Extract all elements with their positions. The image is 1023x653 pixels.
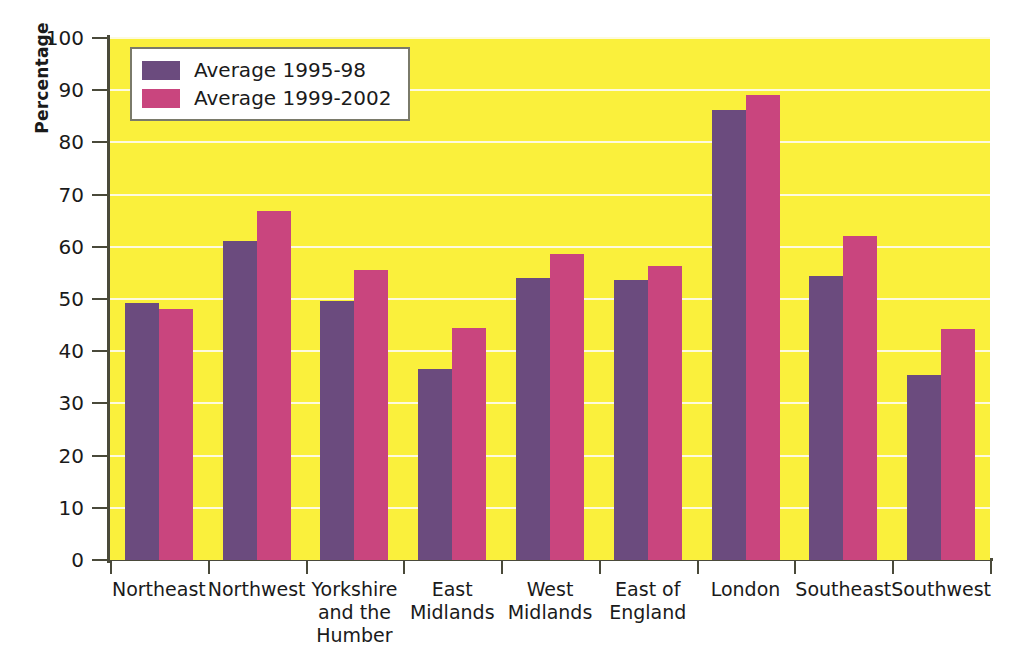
- bar-0-6: [712, 110, 746, 560]
- bar-1-3: [452, 328, 486, 560]
- x-axis-tick: [501, 560, 503, 574]
- bar-1-2: [354, 270, 388, 560]
- y-axis-tick: [92, 455, 108, 457]
- bar-1-6: [746, 95, 780, 560]
- y-axis-tick-label: 30: [38, 391, 84, 415]
- chart-legend: Average 1995-98 Average 1999-2002: [130, 47, 410, 121]
- y-axis-tick: [92, 246, 108, 248]
- legend-item: Average 1999-2002: [142, 84, 392, 112]
- x-axis-tick: [208, 560, 210, 574]
- x-axis-tick-label-line: East: [397, 578, 507, 601]
- bar-0-7: [809, 276, 843, 560]
- bar-0-3: [418, 369, 452, 560]
- y-axis-tick-label: 0: [38, 548, 84, 572]
- bar-0-5: [614, 280, 648, 560]
- y-axis-tick-label: 50: [38, 287, 84, 311]
- legend-swatch-series-0: [142, 61, 180, 80]
- bar-0-4: [516, 278, 550, 560]
- legend-label-series-1: Average 1999-2002: [194, 86, 392, 110]
- gridline: [110, 37, 990, 39]
- bar-0-8: [907, 375, 941, 560]
- x-axis-tick-label-line: Southwest: [886, 578, 996, 601]
- x-axis-tick: [403, 560, 405, 574]
- gridline: [110, 141, 990, 143]
- y-axis-tick-label: 70: [38, 183, 84, 207]
- bar-1-1: [257, 211, 291, 560]
- x-axis-tick: [990, 560, 992, 574]
- x-axis-tick-label-line: and the: [300, 601, 410, 624]
- y-axis-tick-label: 80: [38, 130, 84, 154]
- bar-0-0: [125, 303, 159, 560]
- y-axis-tick: [92, 298, 108, 300]
- y-axis-tick-label: 100: [38, 26, 84, 50]
- x-axis-tick-label: Northeast: [104, 578, 214, 601]
- x-axis-tick: [599, 560, 601, 574]
- x-axis-tick-label-line: Yorkshire: [300, 578, 410, 601]
- y-axis-tick: [92, 402, 108, 404]
- x-axis-tick-label: Northwest: [202, 578, 312, 601]
- y-axis-tick: [92, 350, 108, 352]
- y-axis-tick: [92, 194, 108, 196]
- x-axis-tick: [794, 560, 796, 574]
- x-axis-tick-label: Southeast: [788, 578, 898, 601]
- legend-swatch-series-1: [142, 89, 180, 108]
- x-axis-tick-label: East ofEngland: [593, 578, 703, 624]
- x-axis-tick-label-line: West: [495, 578, 605, 601]
- x-axis-tick: [110, 560, 112, 574]
- y-axis-tick-label: 40: [38, 339, 84, 363]
- bar-1-7: [843, 236, 877, 560]
- y-axis-tick: [92, 141, 108, 143]
- x-axis-tick-label-line: London: [691, 578, 801, 601]
- y-axis-tick: [92, 89, 108, 91]
- bar-0-2: [320, 301, 354, 560]
- y-axis-tick-label: 20: [38, 444, 84, 468]
- bar-1-0: [159, 309, 193, 560]
- y-axis-tick: [92, 507, 108, 509]
- x-axis-tick-label: Yorkshireand theHumber: [300, 578, 410, 647]
- x-axis-tick-label: WestMidlands: [495, 578, 605, 624]
- x-axis-tick-label-line: Midlands: [397, 601, 507, 624]
- x-axis-tick-label: London: [691, 578, 801, 601]
- x-axis-tick-label-line: Midlands: [495, 601, 605, 624]
- bar-1-8: [941, 329, 975, 560]
- x-axis-tick-label-line: Northwest: [202, 578, 312, 601]
- y-axis-tick-label: 90: [38, 78, 84, 102]
- x-axis-tick-label-line: Northeast: [104, 578, 214, 601]
- bar-1-4: [550, 254, 584, 560]
- x-axis-tick: [892, 560, 894, 574]
- gridline: [110, 194, 990, 196]
- x-axis-tick-label: EastMidlands: [397, 578, 507, 624]
- y-axis-tick-label: 60: [38, 235, 84, 259]
- chart-page: Percentage 0102030405060708090100 Northe…: [0, 0, 1023, 653]
- x-axis-tick-label-line: Humber: [300, 624, 410, 647]
- legend-item: Average 1995-98: [142, 56, 392, 84]
- bar-1-5: [648, 266, 682, 560]
- x-axis-tick-label-line: England: [593, 601, 703, 624]
- bar-0-1: [223, 241, 257, 560]
- x-axis-tick-label-line: Southeast: [788, 578, 898, 601]
- x-axis-tick-label: Southwest: [886, 578, 996, 601]
- x-axis-tick: [697, 560, 699, 574]
- y-axis-tick: [92, 559, 108, 561]
- x-axis-tick-label-line: East of: [593, 578, 703, 601]
- y-axis-tick: [92, 37, 108, 39]
- y-axis-tick-label: 10: [38, 496, 84, 520]
- legend-label-series-0: Average 1995-98: [194, 58, 366, 82]
- x-axis-tick: [306, 560, 308, 574]
